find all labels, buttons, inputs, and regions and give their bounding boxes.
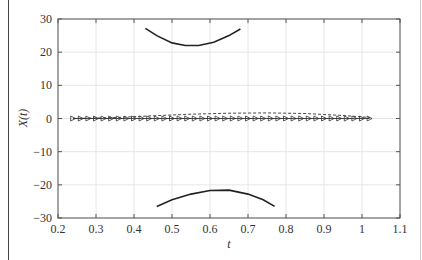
y-tick-label: −10 xyxy=(33,145,52,159)
series-line xyxy=(145,28,240,45)
data-series xyxy=(71,28,372,206)
x-axis-label: t xyxy=(227,237,231,251)
x-tick-label: 0.7 xyxy=(241,222,256,236)
y-axis-label: X(t) xyxy=(16,109,30,129)
series-line xyxy=(157,190,275,206)
line-chart: 0.20.30.40.50.60.70.80.911.1 −30−20−1001… xyxy=(0,0,422,260)
y-tick-label: 20 xyxy=(40,45,52,59)
y-tick-label: −20 xyxy=(33,178,52,192)
x-tick-label: 0.2 xyxy=(51,222,66,236)
y-tick-label: 30 xyxy=(40,12,52,26)
x-tick-label: 0.5 xyxy=(165,222,180,236)
x-tick-label: 0.9 xyxy=(317,222,332,236)
x-tick-label: 0.3 xyxy=(89,222,104,236)
x-axis-tick-labels: 0.20.30.40.50.60.70.80.911.1 xyxy=(51,222,408,236)
y-axis-tick-labels: −30−20−100102030 xyxy=(33,12,52,225)
y-tick-label: 10 xyxy=(40,78,52,92)
x-tick-label: 1 xyxy=(359,222,365,236)
x-tick-label: 0.8 xyxy=(279,222,294,236)
x-tick-label: 0.4 xyxy=(127,222,142,236)
y-tick-label: 0 xyxy=(46,112,52,126)
x-tick-label: 0.6 xyxy=(203,222,218,236)
y-tick-label: −30 xyxy=(33,211,52,225)
x-tick-label: 1.1 xyxy=(393,222,408,236)
